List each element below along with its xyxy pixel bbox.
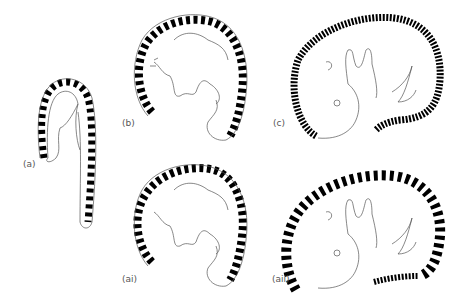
- panel-label-a: (a): [23, 159, 36, 169]
- panel-c-drawing: [294, 17, 440, 138]
- panel-label-aii: (aii): [272, 274, 290, 284]
- panel-label-b: (b): [122, 118, 135, 128]
- panel-b-drawing: [134, 15, 247, 141]
- panel-a-drawing: [38, 79, 96, 228]
- panel-aii-drawing: [286, 175, 440, 290]
- panel-label-ai: (ai): [122, 274, 137, 284]
- figure-canvas: (a) (b) (c) (ai) (aii): [0, 0, 462, 301]
- panel-label-c: (c): [273, 118, 285, 128]
- panel-ai-drawing: [134, 165, 247, 287]
